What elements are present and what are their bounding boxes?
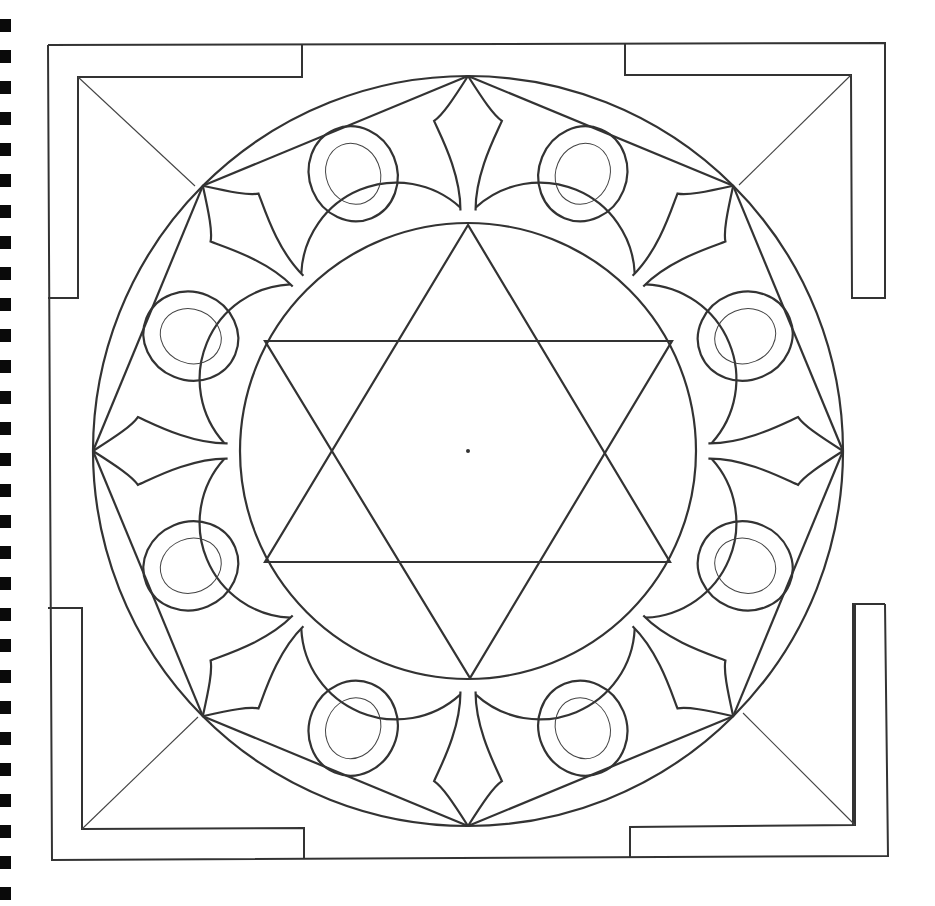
lotus-petal xyxy=(468,626,733,826)
center-dot xyxy=(466,449,470,453)
outer-chord xyxy=(93,186,203,451)
petal-eye-ring xyxy=(684,507,806,625)
outer-chord xyxy=(468,76,733,186)
petal-eye-ring xyxy=(130,507,252,625)
lotus-petal xyxy=(203,626,468,826)
outer-chord xyxy=(203,716,468,826)
gate-top-left xyxy=(48,45,302,298)
petal-eye-inner xyxy=(546,135,620,213)
petal-eye-inner xyxy=(152,299,230,373)
outer-chord xyxy=(203,76,468,186)
lotus-petal xyxy=(93,451,293,716)
lotus-petal xyxy=(203,76,468,276)
outer-chord xyxy=(733,451,843,716)
petal-eye-ring xyxy=(294,667,412,789)
outer-chord xyxy=(468,716,733,826)
petal-eye-ring xyxy=(524,113,642,235)
lotus-petal xyxy=(643,451,843,716)
petal-eye-ring xyxy=(684,277,806,395)
triangle-up xyxy=(265,225,670,562)
gate-top-right xyxy=(625,44,885,298)
outer-chord xyxy=(93,451,203,716)
gate-bottom-right xyxy=(630,604,885,857)
mandala-drawing xyxy=(0,0,935,906)
petal-eye-ring xyxy=(130,277,252,395)
lotus-petal xyxy=(468,76,733,276)
petal-eye-inner xyxy=(706,529,784,603)
petal-eye-inner xyxy=(152,529,230,603)
petal-eye-ring xyxy=(294,113,412,235)
outer-chord xyxy=(733,186,843,451)
petal-eye-inner xyxy=(546,689,620,767)
petal-eye-inner xyxy=(316,135,390,213)
petal-eye-inner xyxy=(706,299,784,373)
petal-eye-inner xyxy=(316,689,390,767)
lotus-petal xyxy=(643,186,843,451)
petal-eye-ring xyxy=(524,667,642,789)
lotus-petal xyxy=(93,186,293,451)
gate-bottom-left xyxy=(48,608,304,858)
